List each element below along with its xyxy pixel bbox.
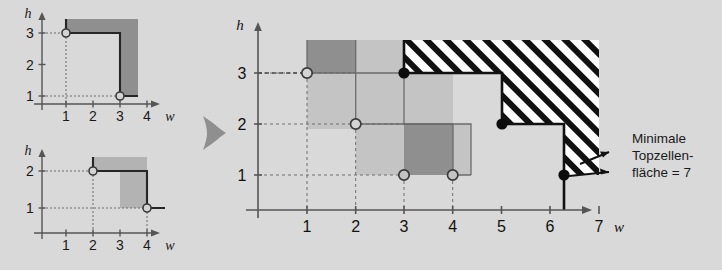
y-axis-label: h xyxy=(236,17,244,33)
dark-overlap-region-b2 xyxy=(404,124,453,175)
y-tick-label: 1 xyxy=(26,200,34,216)
dark-overlap-region-a xyxy=(307,40,356,73)
panel-bottom-left: 1 2 3 4 2 1 w h xyxy=(10,135,195,263)
x-tick-label: 5 xyxy=(497,218,506,235)
data-point-filled xyxy=(496,118,507,129)
x-tick-label: 4 xyxy=(143,108,151,122)
light-fill-extra xyxy=(120,171,147,208)
x-axis-label: w xyxy=(165,109,175,122)
x-tick-label: 2 xyxy=(89,237,97,253)
y-tick-label: 3 xyxy=(238,65,247,82)
figure-root: 1 2 3 4 3 2 1 w h xyxy=(0,0,722,270)
light-region-right xyxy=(453,124,471,175)
x-tick-label: 3 xyxy=(116,108,124,122)
x-tick-label: 1 xyxy=(303,218,312,235)
x-tick-label: 7 xyxy=(595,218,604,235)
y-axis-arrow-icon xyxy=(254,22,262,31)
x-tick-label: 3 xyxy=(116,237,124,253)
panel-top-left: 1 2 3 4 3 2 1 w h xyxy=(10,4,195,122)
x-axis-label: w xyxy=(614,219,624,235)
x-axis-arrow-icon xyxy=(151,229,160,236)
y-axis-label: h xyxy=(25,6,32,21)
data-point-open xyxy=(351,119,361,129)
y-tick-label: 1 xyxy=(238,167,247,184)
x-tick-label: 2 xyxy=(351,218,360,235)
data-point-open xyxy=(448,170,458,180)
region-fills xyxy=(93,157,147,208)
data-point-open xyxy=(399,170,409,180)
y-tick-label: 2 xyxy=(26,57,34,73)
x-tick-label: 2 xyxy=(89,108,97,122)
x-axis-arrow-icon xyxy=(151,100,160,107)
data-point-open xyxy=(89,167,97,175)
y-tick-label: 1 xyxy=(26,88,34,104)
guide-lines xyxy=(42,33,120,104)
annotation-line-3: fläche = 7 xyxy=(632,165,691,182)
arrow-right-icon xyxy=(203,116,226,150)
data-point-filled xyxy=(398,67,409,78)
x-tick-label: 6 xyxy=(546,218,555,235)
y-axis-arrow-icon xyxy=(38,149,45,157)
panel-main: 1 2 3 4 5 6 7 3 2 1 w h xyxy=(228,4,628,262)
x-tick-label: 4 xyxy=(448,218,457,235)
x-axis-label: w xyxy=(165,238,175,253)
y-tick-label: 3 xyxy=(26,25,34,41)
region-fills xyxy=(66,19,138,96)
dark-staircase-region xyxy=(66,19,138,96)
x-tick-label: 3 xyxy=(400,218,409,235)
y-axis-label: h xyxy=(25,143,32,158)
data-point-filled xyxy=(558,169,569,180)
y-axis-arrow-icon xyxy=(38,12,45,20)
x-tick-label: 4 xyxy=(143,237,151,253)
data-point-open xyxy=(116,92,124,100)
data-point-open xyxy=(302,68,312,78)
data-point-open xyxy=(143,204,151,212)
leader-arrow-icon xyxy=(600,169,609,175)
y-tick-label: 2 xyxy=(26,163,34,179)
y-tick-label: 2 xyxy=(238,116,247,133)
annotation-line-2: Topzellen- xyxy=(632,148,694,165)
annotation-line-1: Minimale xyxy=(632,131,686,148)
x-tick-label: 1 xyxy=(62,108,70,122)
x-axis-arrow-icon xyxy=(582,206,592,214)
data-point-open xyxy=(62,29,70,37)
x-tick-label: 1 xyxy=(62,237,70,253)
